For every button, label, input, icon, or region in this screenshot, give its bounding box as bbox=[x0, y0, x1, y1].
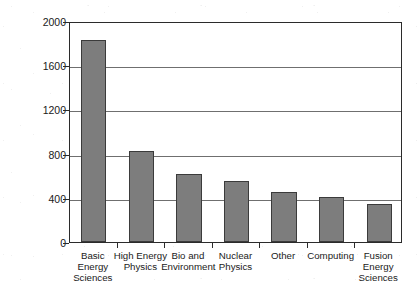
gridline bbox=[70, 67, 401, 68]
bar bbox=[319, 197, 344, 242]
y-axis-tick-label: 1600 bbox=[22, 61, 66, 71]
x-axis-category-label: Computing bbox=[304, 250, 358, 261]
x-axis-category-label: High Energy Physics bbox=[114, 250, 168, 272]
bar-chart-figure: U.S. $ (millions) 0400800120016002000 Ba… bbox=[0, 0, 417, 299]
x-axis-tick bbox=[259, 243, 260, 248]
x-axis-tick bbox=[307, 243, 308, 248]
bar bbox=[129, 151, 154, 242]
plot-area bbox=[69, 22, 402, 243]
x-axis-category-label: Fusion Energy Sciences bbox=[351, 250, 405, 284]
y-axis-tick-label: 800 bbox=[22, 150, 66, 160]
y-axis-tick-label: 2000 bbox=[22, 17, 66, 27]
gridline bbox=[70, 111, 401, 112]
bar bbox=[81, 40, 106, 242]
bar bbox=[271, 192, 296, 242]
x-axis-category-label: Nuclear Physics bbox=[209, 250, 263, 272]
y-axis-tick-label: 400 bbox=[22, 194, 66, 204]
x-axis-category-label: Other bbox=[256, 250, 310, 261]
y-axis-tick-label: 1200 bbox=[22, 105, 66, 115]
y-axis-major-tick bbox=[63, 243, 69, 244]
y-axis-tick-label: 0 bbox=[22, 238, 66, 248]
x-axis-category-label: Bio and Environment bbox=[161, 250, 215, 272]
x-axis-tick bbox=[354, 243, 355, 248]
gridline bbox=[70, 156, 401, 157]
bar bbox=[224, 181, 249, 242]
x-axis-category-label: Basic Energy Sciences bbox=[66, 250, 120, 284]
x-axis-tick bbox=[164, 243, 165, 248]
x-axis-tick bbox=[212, 243, 213, 248]
x-axis-tick bbox=[117, 243, 118, 248]
y-axis-title: U.S. $ (millions) bbox=[3, 0, 21, 44]
bar bbox=[176, 174, 201, 242]
bar bbox=[367, 204, 392, 242]
